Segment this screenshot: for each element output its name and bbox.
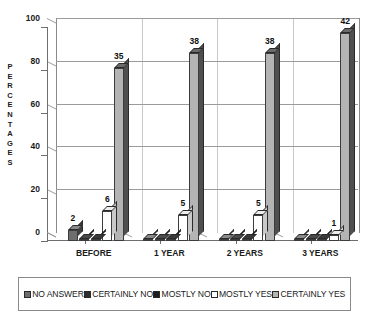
y-axis-title-letter: N [7, 110, 12, 120]
y-axis-tick-label: 0 [14, 227, 40, 237]
y-axis-depth-connector [47, 18, 56, 23]
plot-back-wall [56, 18, 360, 233]
floor-depth-line [47, 232, 56, 237]
gridline [56, 189, 358, 190]
bar: 42 [340, 33, 350, 241]
bar-side [350, 23, 355, 236]
y-axis-title-letter: G [7, 139, 13, 149]
bar [91, 239, 101, 241]
bar-side [124, 58, 129, 236]
y-axis-tick-mark [41, 198, 48, 199]
bar [306, 239, 316, 241]
category-separator [217, 19, 218, 233]
bar-value-label: 42 [341, 16, 350, 26]
y-axis-tick-label: 80 [14, 56, 40, 66]
legend-item-label: MOSTLY NO [162, 289, 211, 299]
legend-item[interactable]: NO ANSWER [24, 289, 84, 299]
legend-item[interactable]: CERTAINLY YES [272, 289, 345, 299]
y-axis-title-letter: E [7, 72, 12, 82]
legend-item[interactable]: CERTAINLY NO [84, 289, 153, 299]
bar-face [253, 215, 263, 241]
bar-face [91, 239, 101, 241]
bar-value-label: 35 [114, 51, 123, 61]
bar-face [68, 230, 78, 241]
legend-item-label: MOSTLY YES [219, 289, 272, 299]
category-separator [293, 19, 294, 233]
y-axis-title-letter: C [7, 91, 12, 101]
bar: 5 [253, 215, 263, 241]
bar-value-label: 38 [190, 36, 199, 46]
bar-value-label: 5 [256, 198, 261, 208]
bar [79, 239, 89, 241]
bar-value-label: 1 [331, 218, 336, 228]
bar-face [306, 239, 316, 241]
bar [219, 239, 229, 241]
bar [230, 239, 240, 241]
x-axis-tick-label: 3 YEARS [275, 248, 365, 258]
y-axis-tick-mark [41, 241, 48, 242]
gridline [56, 146, 358, 147]
y-axis-tick-mark [41, 70, 48, 71]
bar-face [219, 239, 229, 241]
y-axis-tick-label: 40 [14, 141, 40, 151]
y-axis-line [47, 27, 48, 241]
legend-item-label: NO ANSWER [32, 289, 84, 299]
y-axis-title-letter: E [7, 148, 12, 158]
legend-items: NO ANSWERCERTAINLY NOMOSTLY NOMOSTLY YES… [24, 289, 346, 299]
bar-face [317, 239, 327, 241]
bar: 2 [68, 230, 78, 241]
gridline [56, 61, 358, 62]
legend-item[interactable]: MOSTLY YES [211, 289, 272, 299]
bar-face [79, 239, 89, 241]
bar: 5 [178, 215, 188, 241]
bar-chart: PERCENTAGES 020406080100 2635538538142 B… [0, 0, 367, 324]
legend-swatch-icon [272, 291, 279, 298]
bar-face [340, 33, 350, 241]
y-axis-tick-mark [41, 27, 48, 28]
legend-item-label: CERTAINLY YES [280, 289, 345, 299]
y-axis-tick-mark [41, 113, 48, 114]
category-separator [142, 19, 143, 233]
bar-value-label: 38 [265, 36, 274, 46]
bar-side [199, 43, 204, 236]
bar-face [166, 239, 176, 241]
bar-face [143, 239, 153, 241]
legend-item-label: CERTAINLY NO [92, 289, 153, 299]
bar [155, 239, 165, 241]
bar-face [178, 215, 188, 241]
y-axis-tick-label: 60 [14, 99, 40, 109]
bar-value-label: 5 [180, 198, 185, 208]
y-axis-title-letter: R [7, 81, 12, 91]
legend-swatch-icon [24, 291, 31, 298]
plot-area: 2635538538142 [47, 18, 358, 241]
y-axis-title-letter: P [7, 62, 12, 72]
legend-swatch-icon [84, 291, 91, 298]
bar: 6 [102, 211, 112, 241]
bar [294, 239, 304, 241]
plot-side-wall [47, 27, 56, 241]
y-axis-title: PERCENTAGES [4, 62, 16, 168]
bar-side [275, 43, 280, 236]
bar-value-label: 2 [70, 213, 75, 223]
bar-face [155, 239, 165, 241]
legend-item[interactable]: MOSTLY NO [153, 289, 210, 299]
legend-swatch-icon [211, 291, 218, 298]
bar [242, 239, 252, 241]
bar [143, 239, 153, 241]
y-axis-tick-label: 100 [14, 13, 40, 23]
legend: NO ANSWERCERTAINLY NOMOSTLY NOMOSTLY YES… [18, 277, 351, 311]
y-axis-title-letter: S [7, 158, 12, 168]
legend-swatch-icon [153, 291, 160, 298]
y-axis-title-letter: A [7, 129, 12, 139]
y-axis-tick-label: 20 [14, 184, 40, 194]
bar-value-label: 6 [105, 194, 110, 204]
bar [317, 239, 327, 241]
y-axis-title-letter: T [8, 120, 13, 130]
y-axis-tick-mark [41, 155, 48, 156]
bar-face [242, 239, 252, 241]
bar [166, 239, 176, 241]
bar-face [230, 239, 240, 241]
bar-face [294, 239, 304, 241]
gridline [56, 104, 358, 105]
gridline [56, 18, 358, 19]
